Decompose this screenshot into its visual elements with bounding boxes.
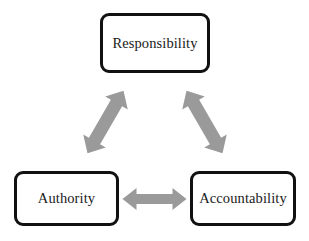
arrow-authority-accountability xyxy=(123,188,187,210)
node-accountability[interactable]: Accountability xyxy=(190,171,296,226)
diagram-canvas: Responsibility Authority Accountability xyxy=(0,0,309,241)
node-authority-label: Authority xyxy=(38,191,95,206)
node-accountability-label: Accountability xyxy=(199,191,287,206)
node-responsibility[interactable]: Responsibility xyxy=(100,13,210,73)
node-authority[interactable]: Authority xyxy=(14,171,119,226)
node-responsibility-label: Responsibility xyxy=(112,36,197,51)
arrow-responsibility-accountability xyxy=(175,84,234,159)
arrow-responsibility-authority xyxy=(76,84,135,159)
